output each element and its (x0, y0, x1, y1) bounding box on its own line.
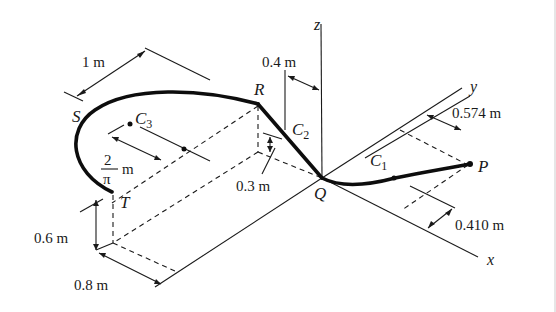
dim-0-410m: 0.410 m (455, 217, 505, 233)
dim-0-574m: 0.574 m (452, 105, 502, 121)
point-q-label: Q (314, 184, 326, 203)
dim-0-3m: 0.3 m (236, 178, 271, 194)
point-r-marker (256, 102, 260, 106)
point-s-label: S (72, 107, 81, 126)
construction-lines (112, 106, 468, 272)
c3-marker (128, 122, 133, 127)
z-axis-label: z (313, 16, 321, 33)
svg-text:π: π (103, 171, 111, 187)
dim-0-8m: 0.8 m (74, 277, 109, 293)
y-axis (322, 88, 462, 178)
dim-0-6m: 0.6 m (34, 230, 69, 246)
z-axis (321, 24, 322, 178)
point-p-marker (467, 161, 473, 167)
dim-0-4m: 0.4 m (262, 54, 297, 70)
axes (178, 24, 478, 272)
dim-1m: 1 m (82, 54, 105, 70)
c3-label: C3 (135, 109, 152, 131)
c1-marker (392, 176, 397, 181)
y-axis-label: y (468, 78, 478, 96)
point-r-label: R (253, 80, 265, 99)
svg-text:2: 2 (104, 152, 112, 168)
rod-diagram: z y x P Q R S T C1 C2 C3 1 m 0.4 m 0.574… (0, 0, 556, 312)
point-t-label: T (120, 193, 131, 212)
arc-center-marker (182, 147, 187, 152)
x-axis-label: x (486, 251, 494, 268)
point-p-label: P (477, 157, 488, 176)
c1-label: C1 (370, 151, 387, 173)
c2-label: C2 (292, 120, 309, 142)
rod-q-p (322, 164, 470, 184)
dim-2-over-pi-m: 2 π m (101, 152, 134, 187)
svg-text:m: m (122, 161, 134, 177)
rod (76, 92, 473, 192)
